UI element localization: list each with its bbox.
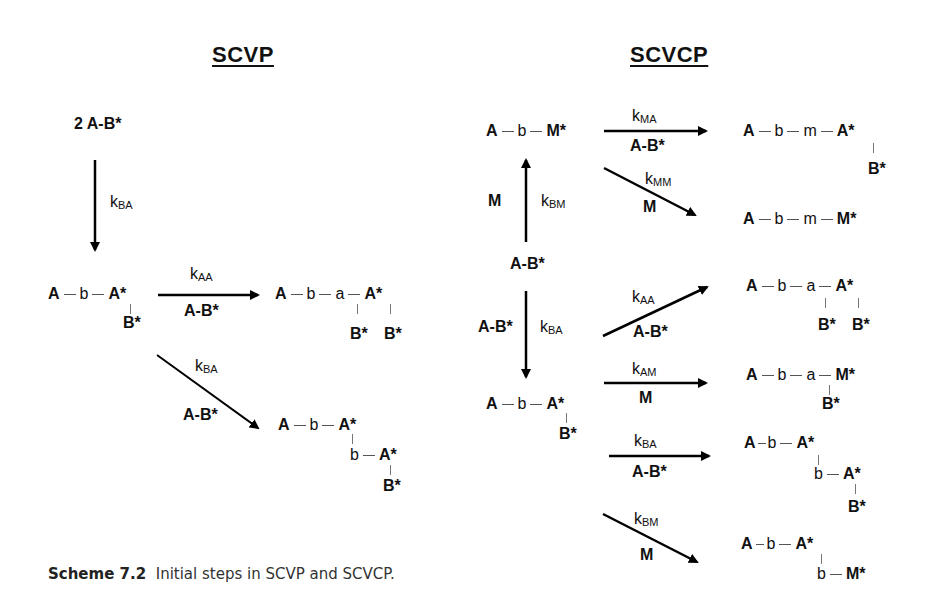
scvcp-reagent-kmm: M [643, 198, 656, 216]
scvcp-product-kbm: AbA* [741, 535, 813, 553]
scvcp-rate-kma: kMA [632, 107, 657, 125]
scvp-title: SCVP [212, 42, 274, 68]
scvcp-product-kbm-chain2: bM* [817, 565, 865, 583]
scvcp-product-kam: AbaM* [746, 366, 855, 384]
scvcp-rate-kmm: kMM [645, 170, 671, 188]
scvcp-product-kaa-branch-1: B* [818, 316, 836, 334]
reaction-arrows [0, 0, 930, 612]
scvp-product-aa: AbaA* [275, 285, 382, 303]
scvcp-title: SCVCP [630, 42, 708, 68]
scvcp-product-kam-branch: B* [822, 395, 840, 413]
scvcp-product-kba-branch: B* [848, 498, 866, 516]
scvcp-product-kaa: AbaA* [746, 277, 853, 295]
scvcp-reagent-kaa: A-B* [633, 323, 668, 341]
scvcp-reagent-kba-2: A-B* [632, 463, 667, 481]
scvcp-down-reagent: A-B* [478, 318, 513, 336]
scvcp-product-kmm: AbmM* [743, 210, 856, 228]
scvp-product-ba-branch: B* [383, 477, 401, 495]
scvp-reagent-aa: A-B* [184, 302, 219, 320]
caption-label: Scheme 7.2 [48, 565, 146, 583]
scvp-reagent-ba: A-B* [183, 406, 218, 424]
scvcp-rate-kba-2: kBA [634, 432, 657, 450]
scvcp-product-kba-chain2: bA* [814, 465, 861, 483]
scvcp-up-reagent: M [488, 192, 501, 210]
scvp-dimer: AbA* [48, 285, 126, 303]
scvcp-up-product: AbM* [486, 122, 566, 140]
figure-caption: Scheme 7.2 Initial steps in SCVP and SCV… [48, 565, 395, 583]
scvp-start-monomer: 2 A-B* [74, 115, 121, 133]
scvp-rate-kaa: kAA [190, 265, 213, 283]
scvcp-rate-kba: kBA [540, 318, 563, 336]
scvp-product-ba: AbA* [278, 416, 356, 434]
scvcp-reagent-kma: A-B* [630, 137, 665, 155]
scvp-dimer-branch: B* [123, 314, 141, 332]
scvcp-center-monomer: A-B* [510, 255, 545, 273]
caption-text: Initial steps in SCVP and SCVCP. [156, 565, 395, 583]
scvcp-product-kma: AbmA* [743, 122, 855, 140]
scvcp-rate-kbm-2: kBM [634, 510, 659, 528]
scvcp-rate-kbm: kBM [541, 192, 566, 210]
scvcp-down-product: AbA* [486, 395, 564, 413]
scvcp-product-kaa-branch-2: B* [852, 316, 870, 334]
scvcp-rate-kam: kAM [632, 360, 657, 378]
scvp-rate-kba-2: kBA [195, 357, 218, 375]
scvp-product-ba-chain2: bA* [350, 446, 397, 464]
scvp-product-aa-branch-1: B* [350, 325, 368, 343]
scvcp-product-kma-branch: B* [868, 160, 886, 178]
scvcp-rate-kaa: kAA [632, 288, 655, 306]
scvcp-product-kba: AbA* [744, 434, 814, 452]
scvp-rate-kba: kBA [110, 193, 133, 211]
scvcp-reagent-kam: M [639, 389, 652, 407]
scvcp-reagent-kbm-2: M [640, 546, 653, 564]
scvp-product-aa-branch-2: B* [384, 325, 402, 343]
scvcp-down-product-branch: B* [559, 425, 577, 443]
